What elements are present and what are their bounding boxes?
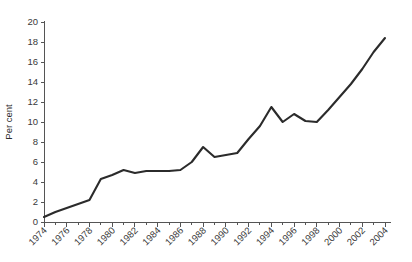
y-tick-label: 16 — [27, 56, 38, 67]
x-tick-label: 1998 — [299, 225, 322, 248]
y-tick-label: 12 — [27, 96, 38, 107]
x-tick-label: 1992 — [231, 225, 254, 248]
y-axis-title: Per cent — [3, 104, 14, 140]
x-tick-label: 1980 — [94, 225, 117, 248]
x-tick-label: 1988 — [185, 225, 208, 248]
chart-canvas: 02468101214161820 1974197619781980198219… — [0, 0, 412, 262]
y-axis-label-text: Per cent — [3, 104, 14, 140]
x-tick-label: 1994 — [254, 225, 277, 248]
x-tick-label: 2002 — [344, 225, 367, 248]
series-line — [44, 38, 385, 217]
x-tick-label: 1974 — [26, 225, 49, 248]
y-tick-label: 20 — [27, 16, 38, 27]
x-tick-label: 2000 — [322, 225, 345, 248]
x-axis: 1974197619781980198219841986198819901992… — [26, 222, 391, 247]
x-tick-label: 1984 — [140, 225, 163, 248]
line-chart: 02468101214161820 1974197619781980198219… — [0, 0, 412, 262]
y-tick-label: 18 — [27, 36, 38, 47]
x-tick-label: 1996 — [276, 225, 299, 248]
y-tick-label: 0 — [33, 216, 38, 227]
y-tick-label: 8 — [33, 136, 38, 147]
y-tick-label: 2 — [33, 196, 38, 207]
y-tick-label: 6 — [33, 156, 38, 167]
x-tick-label: 1982 — [117, 225, 140, 248]
y-tick-label: 14 — [27, 76, 38, 87]
y-tick-label: 4 — [33, 176, 38, 187]
x-tick-label: 1990 — [208, 225, 231, 248]
y-tick-label: 10 — [27, 116, 38, 127]
x-tick-label: 2004 — [367, 225, 390, 248]
y-axis: 02468101214161820 — [27, 16, 44, 227]
x-tick-label: 1976 — [49, 225, 72, 248]
x-tick-label: 1978 — [72, 225, 95, 248]
data-series — [44, 38, 385, 217]
x-tick-label: 1986 — [163, 225, 186, 248]
